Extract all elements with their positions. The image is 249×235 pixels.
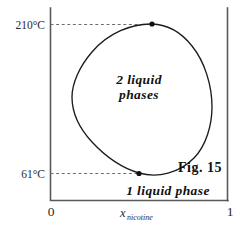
phase-diagram-plot: 210°C 61°C 0 1 x nicotine 2 liquid phase… (0, 0, 249, 235)
x-axis-max-label: 1 (227, 204, 234, 219)
x-axis-label: x nicotine (119, 206, 153, 222)
x-axis-label-main: x (119, 206, 126, 220)
upper-critical-point-marker (149, 21, 154, 26)
y-tick-label-lower: 61°C (21, 168, 45, 180)
one-phase-region-label: 1 liquid phase (126, 183, 210, 198)
two-phase-region-label-line2: phases (118, 87, 159, 102)
x-axis-label-subscript: nicotine (127, 213, 153, 222)
lower-critical-point-marker (136, 171, 141, 176)
y-tick-label-upper: 210°C (15, 19, 45, 31)
phase-diagram-figure: 210°C 61°C 0 1 x nicotine 2 liquid phase… (0, 0, 249, 235)
two-phase-region-label-line1: 2 liquid (115, 72, 162, 87)
two-phase-region-label: 2 liquid phases (115, 72, 162, 102)
x-axis-min-label: 0 (48, 204, 55, 219)
figure-caption: Fig. 15 (178, 160, 222, 175)
